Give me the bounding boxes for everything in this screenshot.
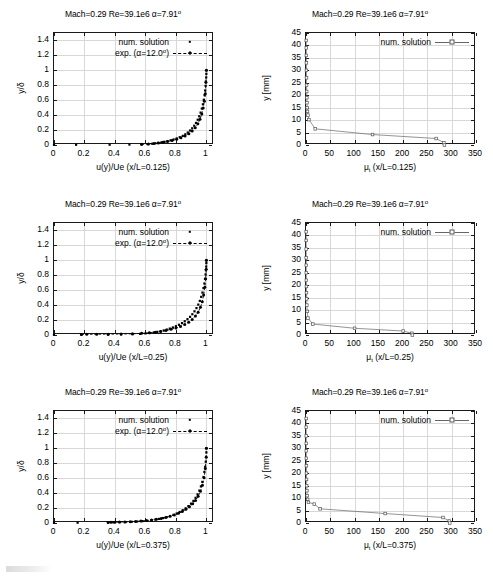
tick-label-x: 0 bbox=[51, 526, 56, 536]
tick-label-y: 0 bbox=[29, 139, 49, 149]
tick-label-y: 1.2 bbox=[29, 239, 49, 249]
data-point bbox=[203, 286, 206, 289]
panel-eddy-viscosity-x-0125: Mach=0.29 Re=39.1e6 α=7.91o0501001502002… bbox=[247, 0, 493, 185]
data-point bbox=[110, 521, 113, 524]
tick-label-x: 350 bbox=[468, 338, 482, 348]
axis-label-y: y/δ bbox=[16, 272, 26, 283]
data-point bbox=[186, 318, 188, 320]
tick-label-y: 30 bbox=[281, 442, 301, 452]
legend: num. solution bbox=[380, 226, 469, 237]
tick-label-x: 0.4 bbox=[108, 338, 120, 348]
data-point bbox=[201, 300, 204, 303]
data-point bbox=[306, 494, 309, 497]
data-point bbox=[179, 325, 182, 328]
data-point bbox=[305, 77, 308, 80]
legend-point-marker bbox=[188, 50, 192, 54]
data-point bbox=[184, 508, 187, 511]
data-point bbox=[194, 126, 197, 129]
legend-label: exp. (α=12.0o) bbox=[115, 47, 169, 58]
data-point bbox=[402, 330, 405, 333]
tick-label-x: 1 bbox=[203, 526, 208, 536]
legend-label: num. solution bbox=[380, 227, 431, 237]
tick-label-y: 40 bbox=[281, 229, 301, 239]
legend-point-marker bbox=[189, 230, 191, 232]
data-point bbox=[203, 476, 206, 479]
series-line bbox=[142, 70, 207, 144]
figure-panel-grid: Mach=0.29 Re=39.1e6 α=7.91o00.20.40.60.8… bbox=[0, 0, 493, 576]
data-point bbox=[306, 106, 309, 109]
legend-key bbox=[173, 238, 207, 248]
axis-label-x: u(y)/Ue (x/L=0.25) bbox=[99, 352, 168, 362]
legend-entry: num. solution bbox=[380, 414, 469, 425]
legend: num. solutionexp. (α=12.0o) bbox=[115, 36, 207, 58]
legend-entry: num. solution bbox=[380, 36, 469, 47]
data-point bbox=[305, 435, 308, 438]
tick-label-x: 250 bbox=[419, 148, 433, 158]
data-point bbox=[154, 331, 157, 334]
tick-label-x: 0.2 bbox=[78, 148, 90, 158]
data-point bbox=[189, 316, 191, 318]
tick-label-y: 20 bbox=[281, 279, 301, 289]
legend-entry: num. solution bbox=[115, 414, 207, 425]
tick-label-y: 40 bbox=[281, 39, 301, 49]
axis-label-y: y/δ bbox=[16, 460, 26, 471]
tick-label-x: 350 bbox=[468, 148, 482, 158]
series-layer bbox=[306, 33, 476, 145]
data-point bbox=[305, 484, 308, 487]
data-point bbox=[179, 136, 182, 139]
data-point bbox=[75, 144, 77, 146]
data-point bbox=[140, 332, 143, 335]
axis-tick-y bbox=[306, 335, 309, 336]
axis-label-y: y [mm] bbox=[261, 265, 271, 291]
tick-label-y: 45 bbox=[281, 27, 301, 37]
data-point bbox=[305, 248, 308, 251]
legend-point-marker bbox=[450, 417, 455, 422]
axis-tick-x-top bbox=[476, 411, 477, 414]
data-point bbox=[307, 317, 310, 320]
legend: num. solutionexp. (α=12.0o) bbox=[115, 226, 207, 248]
axis-tick-x bbox=[476, 518, 477, 521]
data-point bbox=[305, 472, 308, 475]
data-point bbox=[166, 140, 169, 143]
data-point bbox=[191, 127, 193, 129]
axis-tick-y-right bbox=[471, 335, 474, 336]
tick-label-y: 1.4 bbox=[29, 34, 49, 44]
data-point bbox=[371, 133, 374, 136]
axis-tick-y-right bbox=[209, 523, 212, 524]
data-point bbox=[202, 294, 205, 297]
tick-label-y: 1.2 bbox=[29, 49, 49, 59]
data-point bbox=[191, 129, 194, 132]
tick-label-x: 0.4 bbox=[108, 526, 120, 536]
tick-label-x: 1 bbox=[203, 338, 208, 348]
data-point bbox=[306, 498, 309, 501]
tick-label-x: 0.2 bbox=[78, 526, 90, 536]
data-point bbox=[202, 107, 205, 110]
data-point bbox=[306, 489, 309, 492]
data-point bbox=[113, 521, 116, 524]
tick-label-y: 10 bbox=[281, 304, 301, 314]
axis-tick-x-top bbox=[476, 33, 477, 36]
data-point bbox=[305, 464, 308, 467]
legend-label: exp. (α=12.0o) bbox=[115, 425, 169, 436]
data-point bbox=[305, 271, 308, 274]
legend-label: num. solution bbox=[380, 37, 431, 47]
data-point bbox=[120, 333, 123, 336]
tick-label-y: 1 bbox=[29, 442, 49, 452]
tick-label-y: 0.6 bbox=[29, 472, 49, 482]
data-point bbox=[305, 442, 308, 445]
data-point bbox=[305, 417, 308, 420]
data-point bbox=[305, 39, 308, 42]
axis-label-x: u(y)/Ue (x/L=0.375) bbox=[96, 540, 169, 550]
legend-key bbox=[173, 415, 207, 425]
data-point bbox=[129, 520, 132, 523]
data-point bbox=[308, 118, 311, 121]
data-point bbox=[196, 122, 199, 125]
data-point bbox=[305, 257, 308, 260]
data-point bbox=[306, 110, 309, 113]
data-point bbox=[194, 315, 197, 318]
data-point bbox=[107, 333, 110, 336]
axis-tick-x-top bbox=[476, 223, 477, 226]
data-point bbox=[198, 115, 200, 117]
axis-tick-x bbox=[476, 140, 477, 143]
data-point bbox=[305, 291, 308, 294]
